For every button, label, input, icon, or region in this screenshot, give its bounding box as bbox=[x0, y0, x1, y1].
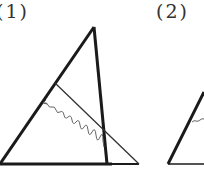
diagram-canvas: (1) (2) bbox=[0, 0, 204, 172]
geometry-figures bbox=[0, 0, 204, 172]
figure-2-triangle bbox=[168, 92, 204, 164]
construction-line bbox=[55, 83, 139, 164]
wavy-segment bbox=[44, 103, 104, 147]
wavy-marker bbox=[192, 119, 204, 122]
figure-1-triangle bbox=[0, 27, 139, 164]
